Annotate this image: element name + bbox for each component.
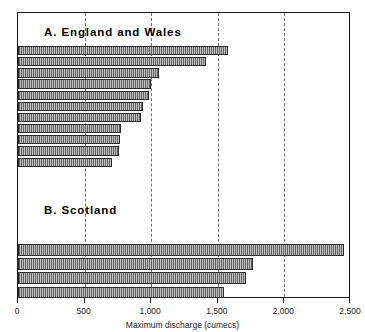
bar [18, 79, 151, 88]
bar [18, 258, 253, 270]
bar [18, 91, 149, 100]
bar [18, 287, 224, 299]
bar [18, 146, 119, 155]
tick-1500 [217, 298, 218, 303]
tick-label-2000: 2,000 [273, 306, 294, 316]
bar [18, 272, 246, 284]
tick-500 [84, 298, 85, 303]
tick-label-0: 0 [15, 306, 20, 316]
panel-caption-scotland: B. Scotland [44, 204, 117, 216]
bar [18, 158, 112, 167]
bar [18, 135, 120, 144]
tick-2000 [283, 298, 284, 303]
bar [18, 244, 344, 256]
chart-figure: A. England and Wales B. Scotland 05001,0… [0, 0, 365, 332]
x-axis-ticks [17, 298, 350, 304]
x-axis-title: Maximum discharge (cumecs) [0, 320, 365, 330]
bar [18, 124, 121, 133]
tick-2500 [349, 298, 350, 303]
tick-label-1000: 1,000 [140, 306, 161, 316]
bar [18, 57, 206, 66]
tick-label-500: 500 [77, 306, 91, 316]
tick-label-1500: 1,500 [206, 306, 227, 316]
tick-1000 [150, 298, 151, 303]
bar [18, 46, 228, 55]
plot-area: A. England and Wales B. Scotland [17, 12, 350, 298]
bar [18, 102, 143, 111]
tick-label-2500: 2,500 [339, 306, 360, 316]
tick-0 [17, 298, 18, 303]
panel-caption-england-and-wales: A. England and Wales [44, 26, 182, 38]
bar [18, 113, 141, 122]
bar [18, 68, 159, 77]
